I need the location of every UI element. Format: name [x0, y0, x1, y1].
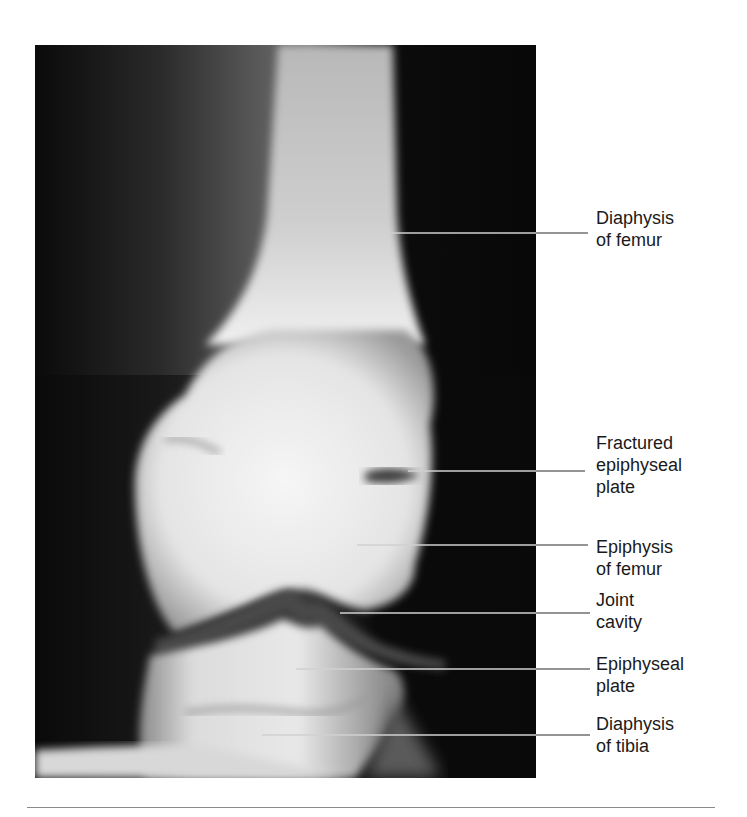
label-epiphyseal-plate: Epiphyseal plate: [596, 653, 684, 697]
label-diaphysis-tibia: Diaphysis of tibia: [596, 713, 674, 757]
label-diaphysis-femur: Diaphysis of femur: [596, 207, 674, 251]
label-fractured-epiphyseal-plate: Fractured epiphyseal plate: [596, 432, 682, 498]
label-joint-cavity: Joint cavity: [596, 589, 642, 633]
bottom-rule-divider: [27, 807, 715, 808]
label-epiphysis-femur: Epiphysis of femur: [596, 536, 673, 580]
anatomy-figure: Diaphysis of femur Fractured epiphyseal …: [0, 0, 747, 817]
knee-xray-image: [35, 45, 536, 778]
